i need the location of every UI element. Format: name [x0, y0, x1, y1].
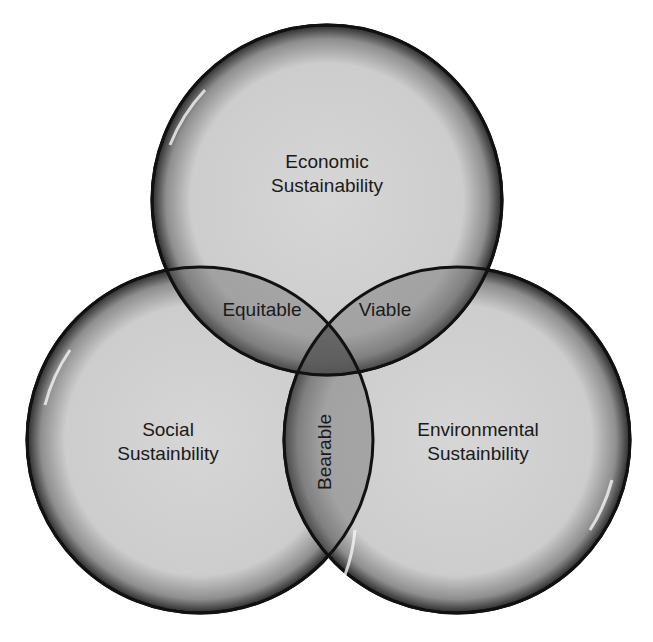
label-social: Social Sustainbility — [88, 418, 248, 466]
label-economic-line1: Economic — [237, 150, 417, 174]
venn-diagram — [0, 0, 653, 642]
label-social-line1: Social — [88, 418, 248, 442]
label-equitable: Equitable — [212, 298, 312, 322]
label-social-line2: Sustainbility — [88, 442, 248, 466]
label-economic-line2: Sustainability — [237, 174, 417, 198]
label-viable: Viable — [340, 298, 430, 322]
label-environmental: Environmental Sustainbility — [398, 418, 558, 466]
label-environmental-line2: Sustainbility — [398, 442, 558, 466]
label-economic: Economic Sustainability — [237, 150, 417, 198]
label-bearable: Bearable — [313, 412, 337, 492]
label-environmental-line1: Environmental — [398, 418, 558, 442]
